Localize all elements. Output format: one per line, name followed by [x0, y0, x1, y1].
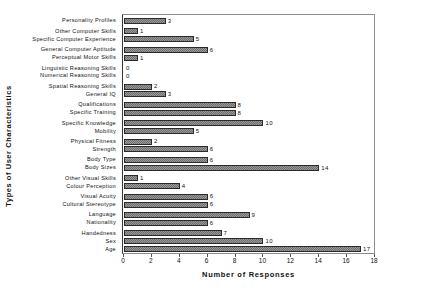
bar-value-label: 6 [210, 200, 214, 208]
category-label: Language [89, 210, 116, 218]
category-label: Linguistic Reasoning Skills [42, 64, 116, 72]
bar [124, 202, 208, 208]
category-label: Nationality [87, 218, 116, 226]
bar-value-label: 5 [196, 127, 200, 135]
bar [124, 194, 208, 200]
category-label: Colour Perception [66, 182, 116, 190]
category-label: Strength [92, 145, 116, 153]
bar-value-label: 3 [168, 17, 172, 25]
bar [124, 230, 222, 236]
x-axis-title: Number of Responses [122, 270, 375, 279]
bar [124, 102, 236, 108]
bar [124, 55, 138, 61]
bar-value-label: 9 [252, 211, 256, 219]
bar [124, 84, 152, 90]
bar [124, 139, 152, 145]
bar-value-label: 10 [265, 119, 272, 127]
bar-value-label: 6 [210, 219, 214, 227]
x-tick-label: 14 [315, 257, 322, 264]
x-tick-label: 4 [177, 257, 181, 264]
x-tick-label: 18 [370, 257, 377, 264]
bar [124, 220, 208, 226]
bar-value-label: 1 [140, 27, 144, 35]
bar [124, 36, 194, 42]
bar-value-label: 1 [140, 174, 144, 182]
category-label: Personality Profiles [62, 16, 116, 24]
x-tick-label: 2 [149, 257, 153, 264]
category-label: Other Computer Skills [55, 27, 116, 35]
category-label: Other Visual Skills [65, 174, 116, 182]
category-label: Handedness [82, 229, 116, 237]
bar-value-label: 2 [154, 82, 158, 90]
x-axis-ticks: 024681012141618 [122, 254, 375, 266]
chart-container: Types of User Characteristics Personalit… [0, 0, 425, 292]
category-label: Body Sizes [85, 163, 116, 171]
bar [124, 28, 138, 34]
bar [124, 246, 361, 252]
category-label: Specific Computer Experience [32, 35, 116, 43]
bar-value-label: 14 [321, 164, 328, 172]
bar [124, 157, 208, 163]
x-tick-label: 6 [205, 257, 209, 264]
y-axis-title: Types of User Characteristics [0, 0, 16, 292]
bar [124, 238, 263, 244]
bar [124, 91, 166, 97]
bar [124, 120, 263, 126]
x-tick-label: 8 [233, 257, 237, 264]
x-tick-label: 12 [287, 257, 294, 264]
bar-value-label: 4 [182, 182, 186, 190]
category-label: Visual Acuity [80, 192, 116, 200]
category-label: General IQ [86, 90, 116, 98]
bar [124, 18, 166, 24]
bar-value-label: 8 [238, 109, 242, 117]
bar-value-label: 7 [224, 229, 228, 237]
category-label-column: Personality ProfilesOther Computer Skill… [18, 14, 119, 254]
x-tick-label: 0 [121, 257, 125, 264]
category-label: General Computer Aptitude [41, 45, 116, 53]
bar-value-label: 0 [126, 72, 130, 80]
bar-value-label: 5 [196, 35, 200, 43]
bar-value-label: 3 [168, 90, 172, 98]
bar-value-label: 0 [126, 64, 130, 72]
bar [124, 110, 236, 116]
category-label: Specific Training [70, 108, 116, 116]
bar [124, 212, 250, 218]
category-label: Cultural Stereotype [62, 200, 116, 208]
plot-area: 315610023881052661414669671017 [122, 14, 375, 254]
bar [124, 47, 208, 53]
bar-value-label: 6 [210, 145, 214, 153]
category-label: Specific Knowledge [62, 119, 116, 127]
category-label: Mobility [95, 127, 116, 135]
bar [124, 128, 194, 134]
category-label: Physical Fitness [71, 137, 116, 145]
category-label: Spatial Reasoning Skills [49, 82, 116, 90]
bar-value-label: 8 [238, 101, 242, 109]
bar [124, 146, 208, 152]
category-label: Perceptual Motor Skills [52, 53, 116, 61]
bar-value-label: 2 [154, 137, 158, 145]
category-label: Sex [105, 237, 116, 245]
category-label: Body Type [87, 155, 116, 163]
x-tick-label: 16 [342, 257, 349, 264]
bar [124, 183, 180, 189]
bar-value-label: 1 [140, 54, 144, 62]
bar-value-label: 6 [210, 46, 214, 54]
bar-series: 315610023881052661414669671017 [123, 15, 374, 253]
category-label: Qualifications [78, 100, 116, 108]
bar-value-label: 6 [210, 156, 214, 164]
category-label: Numerical Reasoning Skills [40, 71, 116, 79]
bar [124, 175, 138, 181]
x-tick-label: 10 [259, 257, 266, 264]
bar-value-label: 17 [363, 245, 370, 253]
bar [124, 165, 319, 171]
bar-value-label: 10 [265, 237, 272, 245]
category-label: Age [105, 245, 116, 253]
bar-value-label: 6 [210, 192, 214, 200]
